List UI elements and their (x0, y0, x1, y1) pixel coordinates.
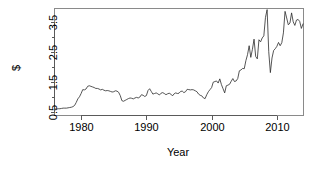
x-axis-tick-labels: 1980199020002010 (69, 121, 289, 133)
x-tick-label: 1980 (69, 121, 93, 133)
gas-price-line-chart: 0.51.52.53.5 $ 1980199020002010 Year (0, 0, 315, 170)
y-tick-label: 3.5 (47, 15, 59, 30)
y-tick-label: 1.5 (47, 75, 59, 90)
x-tick-label: 2010 (265, 121, 289, 133)
y-axis-ticks (51, 23, 55, 113)
y-tick-label: 0.5 (47, 105, 59, 120)
series-line-gas-price (55, 10, 303, 109)
x-tick-label: 1990 (134, 121, 158, 133)
y-axis: 0.51.52.53.5 $ (10, 15, 59, 120)
x-axis: 1980199020002010 Year (69, 116, 289, 159)
x-axis-title: Year (167, 146, 190, 158)
y-axis-title: $ (10, 65, 22, 71)
plot-panel-border (55, 9, 304, 116)
x-axis-ticks (82, 116, 278, 120)
y-tick-label: 2.5 (47, 45, 59, 60)
chart-figure: 0.51.52.53.5 $ 1980199020002010 Year (0, 0, 315, 170)
x-tick-label: 2000 (200, 121, 224, 133)
series-group (55, 10, 303, 109)
